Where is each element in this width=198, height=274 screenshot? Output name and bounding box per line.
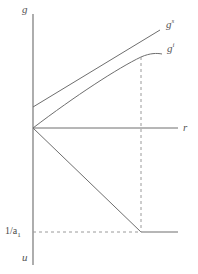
axis-label-u: u bbox=[22, 252, 28, 263]
tick-label-one-over-a1-subscript: 1 bbox=[17, 231, 21, 239]
unemployment-line bbox=[33, 128, 141, 232]
axis-label-r: r bbox=[183, 122, 187, 133]
tick-label-one-over-a1-base: 1/a bbox=[5, 225, 17, 236]
axis-label-g: g bbox=[22, 4, 28, 15]
curve-label-g-investment-superscript: i bbox=[173, 41, 175, 49]
tick-label-one-over-a1: 1/a1 bbox=[5, 226, 21, 239]
economics-diagram: g u r gs gi 1/a1 bbox=[0, 0, 198, 274]
g-investment-curve bbox=[33, 53, 162, 128]
curve-label-g-supply-superscript: s bbox=[172, 17, 175, 25]
curve-label-g-investment: gi bbox=[167, 42, 174, 54]
curve-label-g-supply: gs bbox=[166, 18, 174, 30]
